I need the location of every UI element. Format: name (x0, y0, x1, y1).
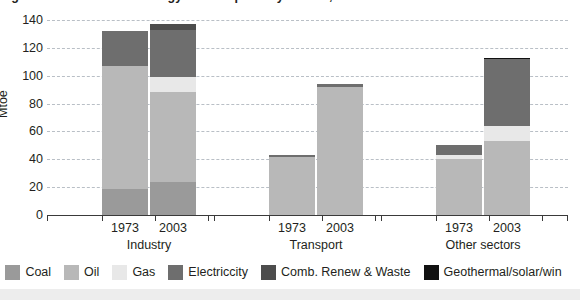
chart-legend: CoalOilGasElectriccityComb. Renew & Wast… (0, 262, 580, 282)
bar-segment-oil[interactable] (150, 92, 196, 181)
bar-industry-2003[interactable] (150, 24, 196, 215)
x-axis-group-label-other-sectors: Other sectors (423, 238, 543, 252)
bar-segment-gas[interactable] (150, 77, 196, 92)
bottom-strip (0, 289, 580, 300)
legend-label: Coal (25, 266, 51, 279)
legend-item-gas[interactable]: Gas (112, 265, 155, 280)
bar-segment-electriccity[interactable] (484, 59, 530, 126)
x-axis-tick (542, 215, 543, 221)
bar-other-sectors-2003[interactable] (484, 58, 530, 215)
x-axis-tick (375, 215, 376, 221)
legend-item-coal[interactable]: Coal (5, 265, 51, 280)
legend-swatch-icon (112, 265, 127, 280)
bar-transport-1973[interactable] (269, 155, 315, 215)
x-axis-tick (47, 215, 48, 221)
legend-label: Geothermal/solar/win (444, 266, 562, 279)
bar-segment-electriccity[interactable] (436, 145, 482, 155)
bar-segment-gas[interactable] (436, 155, 482, 159)
bar-industry-1973[interactable] (102, 31, 148, 215)
y-tick-label: 40 (3, 152, 43, 166)
bar-transport-2003[interactable] (317, 84, 363, 215)
y-tick-label: 100 (3, 69, 43, 83)
chart-root: Figure 1: Sectoral final energy consumpt… (0, 0, 580, 300)
bar-segment-oil[interactable] (269, 157, 315, 216)
legend-label: Electriccity (188, 266, 248, 279)
plot-area (47, 20, 568, 215)
bar-segment-oil[interactable] (436, 159, 482, 215)
y-tick-label: 0 (3, 208, 43, 222)
legend-swatch-icon (64, 265, 79, 280)
legend-swatch-icon (424, 265, 439, 280)
legend-item-comb-renew-waste[interactable]: Comb. Renew & Waste (261, 265, 410, 280)
bar-segment-oil[interactable] (102, 66, 148, 189)
x-axis-year-label: 2003 (310, 221, 370, 235)
x-axis-group-label-transport: Transport (256, 238, 376, 252)
y-tick-label: 20 (3, 180, 43, 194)
bar-segment-oil[interactable] (317, 87, 363, 215)
legend-label: Gas (132, 266, 155, 279)
x-axis-year-label: 2003 (477, 221, 537, 235)
bar-segment-gas[interactable] (484, 126, 530, 141)
bar-segment-electriccity[interactable] (317, 84, 363, 87)
legend-swatch-icon (168, 265, 183, 280)
x-axis-tick (381, 215, 382, 221)
legend-label: Oil (84, 266, 99, 279)
bar-segment-electriccity[interactable] (269, 155, 315, 156)
y-axis-title: Mtoe (0, 90, 10, 118)
chart-title: Figure 1: Sectoral final energy consumpt… (0, 0, 580, 3)
y-tick-label: 60 (3, 124, 43, 138)
legend-swatch-icon (5, 265, 20, 280)
y-tick-label: 120 (3, 41, 43, 55)
legend-item-geothermal-solar-win[interactable]: Geothermal/solar/win (424, 265, 562, 280)
x-axis-year-label: 2003 (143, 221, 203, 235)
bar-segment-oil[interactable] (484, 141, 530, 215)
x-axis-tick (567, 215, 568, 221)
x-axis-tick (208, 215, 209, 221)
bar-other-sectors-1973[interactable] (436, 145, 482, 215)
x-axis-tick (214, 215, 215, 221)
legend-label: Comb. Renew & Waste (281, 266, 410, 279)
bar-segment-comb-renew-waste[interactable] (150, 24, 196, 30)
bar-segment-coal[interactable] (102, 189, 148, 215)
x-axis-group-label-industry: Industry (89, 238, 209, 252)
legend-item-electriccity[interactable]: Electriccity (168, 265, 248, 280)
legend-swatch-icon (261, 265, 276, 280)
bar-segment-coal[interactable] (150, 182, 196, 215)
legend-item-oil[interactable]: Oil (64, 265, 99, 280)
bar-segment-geothermal-solar-win[interactable] (484, 58, 530, 59)
y-tick-label: 140 (3, 13, 43, 27)
bar-segment-electriccity[interactable] (150, 30, 196, 77)
bar-segment-electriccity[interactable] (102, 31, 148, 66)
gridline-140 (47, 20, 568, 21)
